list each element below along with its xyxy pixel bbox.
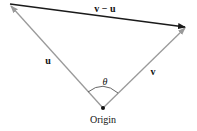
vector-u-arrow bbox=[11, 6, 103, 108]
label-theta: θ bbox=[103, 76, 108, 87]
label-v-minus-u: v − u bbox=[94, 3, 116, 14]
vector-diagram: v − u u v θ Origin bbox=[0, 0, 197, 131]
angle-theta-arc bbox=[88, 86, 118, 93]
origin-point bbox=[101, 106, 105, 110]
label-v: v bbox=[151, 66, 156, 77]
vector-v-arrow bbox=[103, 28, 185, 108]
label-origin: Origin bbox=[90, 114, 116, 125]
label-u: u bbox=[45, 55, 51, 66]
